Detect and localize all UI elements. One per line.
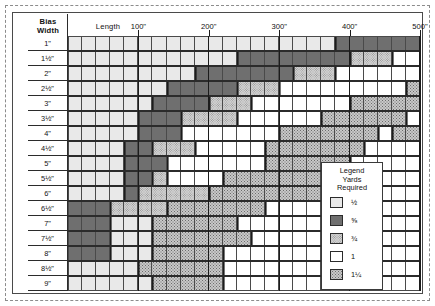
grid-cell <box>251 171 265 186</box>
grid-cell <box>279 36 293 51</box>
grid-cell <box>293 96 307 111</box>
row-label: 6½" <box>28 201 67 216</box>
grid-row <box>68 36 420 51</box>
grid-cell <box>293 201 307 216</box>
grid-cell <box>251 156 265 171</box>
row-label: 3" <box>28 96 67 111</box>
grid-cell <box>307 186 321 201</box>
grid-cell <box>279 201 293 216</box>
row-label: 7" <box>28 216 67 231</box>
grid-cell <box>350 66 364 81</box>
grid-cell <box>152 216 166 231</box>
grid-cell <box>237 66 251 81</box>
grid-cell <box>350 126 364 141</box>
grid-cell <box>138 141 152 156</box>
grid-cell <box>96 111 110 126</box>
grid-cell <box>293 111 307 126</box>
bias-width-header: Bias Width <box>28 17 68 36</box>
grid-cell <box>209 261 223 276</box>
grid-cell <box>406 111 420 126</box>
grid-cell <box>237 96 251 111</box>
grid-cell <box>237 276 251 291</box>
grid-cell <box>195 156 209 171</box>
grid-cell <box>124 216 138 231</box>
row-label: 4½" <box>28 141 67 156</box>
grid-cell <box>96 171 110 186</box>
grid-cell <box>406 276 420 291</box>
grid-cell <box>167 126 181 141</box>
grid-cell <box>350 141 364 156</box>
grid-cell <box>279 156 293 171</box>
grid-cell <box>392 96 406 111</box>
grid-cell <box>350 96 364 111</box>
grid-cell <box>68 246 82 261</box>
grid-cell <box>406 186 420 201</box>
grid-cell <box>209 126 223 141</box>
grid-cell <box>223 96 237 111</box>
grid-cell <box>223 276 237 291</box>
grid-cell <box>181 51 195 66</box>
grid-cell <box>392 186 406 201</box>
grid-cell <box>293 216 307 231</box>
grid-cell <box>195 231 209 246</box>
grid-cell <box>68 171 82 186</box>
grid-cell <box>124 81 138 96</box>
grid-cell <box>68 201 82 216</box>
grid-cell <box>152 51 166 66</box>
grid-cell <box>223 261 237 276</box>
grid-cell <box>265 96 279 111</box>
grid-cell <box>138 36 152 51</box>
grid-cell <box>279 231 293 246</box>
grid-cell <box>307 66 321 81</box>
grid-cell <box>96 276 110 291</box>
grid-cell <box>237 126 251 141</box>
grid-cell <box>110 186 124 201</box>
grid-cell <box>110 261 124 276</box>
x-tick-label-500: 500" <box>403 22 435 31</box>
grid-cell <box>251 141 265 156</box>
grid-cell <box>110 216 124 231</box>
row-label: 6" <box>28 186 67 201</box>
grid-cell <box>279 81 293 96</box>
grid-cell <box>68 216 82 231</box>
grid-cell <box>321 96 335 111</box>
grid-cell <box>181 261 195 276</box>
grid-cell <box>181 201 195 216</box>
grid-cell <box>378 96 392 111</box>
grid-cell <box>124 156 138 171</box>
grid-cell <box>406 231 420 246</box>
grid-cell <box>96 141 110 156</box>
legend-label-oneandquarter: 1¼ <box>351 270 361 279</box>
grid-cell <box>167 66 181 81</box>
grid-cell <box>307 96 321 111</box>
grid-cell <box>124 111 138 126</box>
grid-cell <box>265 51 279 66</box>
grid-cell <box>68 81 82 96</box>
row-separator <box>68 155 420 156</box>
grid-cell <box>110 201 124 216</box>
grid-cell <box>68 261 82 276</box>
row-label: 5½" <box>28 171 67 186</box>
row-separator <box>68 110 420 111</box>
row-label: 7½" <box>28 231 67 246</box>
grid-cell <box>279 96 293 111</box>
grid-cell <box>209 51 223 66</box>
grid-cell <box>152 276 166 291</box>
grid-cell <box>209 186 223 201</box>
grid-cell <box>265 156 279 171</box>
grid-cell <box>321 111 335 126</box>
hundred-inch-rule-300 <box>279 36 280 291</box>
grid-cell <box>110 246 124 261</box>
grid-cell <box>251 126 265 141</box>
legend-label-one: 1 <box>351 252 355 261</box>
grid-row <box>68 111 420 126</box>
grid-cell <box>392 201 406 216</box>
grid-cell <box>406 141 420 156</box>
grid-cell <box>195 246 209 261</box>
bias-width-header-line2: Width <box>28 26 68 35</box>
grid-cell <box>124 96 138 111</box>
grid-cell <box>251 51 265 66</box>
grid-cell <box>237 186 251 201</box>
grid-cell <box>167 186 181 201</box>
grid-cell <box>82 126 96 141</box>
